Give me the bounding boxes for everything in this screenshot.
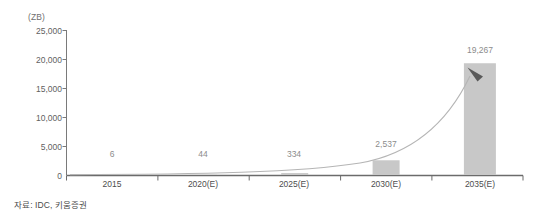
value-label-2015: 6 [82, 150, 142, 159]
bar-2025 [281, 173, 308, 175]
value-label-2035: 19,267 [450, 46, 510, 55]
bar-2035 [464, 63, 496, 175]
bar-2030 [373, 160, 400, 175]
chart-container: (ZB) 25,000 20,000 15,000 10,000 5,000 0 [0, 0, 554, 222]
x-tick-label-2020: 2020(E) [173, 180, 233, 189]
x-tick-label-2030: 2030(E) [356, 180, 416, 189]
y-axis-ticks [63, 31, 67, 147]
source-note: 자료: IDC, 키움증권 [14, 198, 87, 210]
x-tick-label-2015: 2015 [82, 180, 142, 189]
value-label-2020: 44 [173, 150, 233, 159]
x-tick-label-2025: 2025(E) [264, 180, 324, 189]
value-label-2030: 2,537 [356, 140, 416, 149]
value-label-2025: 334 [264, 150, 324, 159]
growth-trend-curve [70, 76, 470, 175]
x-tick-label-2035: 2035(E) [450, 180, 510, 189]
